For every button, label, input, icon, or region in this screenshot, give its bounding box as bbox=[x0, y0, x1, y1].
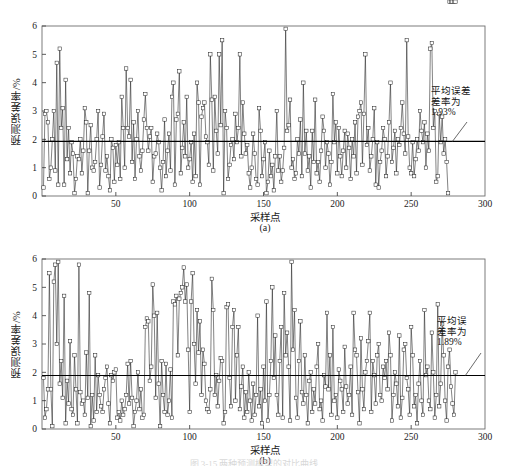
y-axis-label-b: 预测误差率/% bbox=[6, 285, 28, 405]
svg-text:100: 100 bbox=[183, 432, 198, 442]
svg-text:3: 3 bbox=[32, 106, 37, 116]
svg-text:300: 300 bbox=[478, 432, 493, 442]
plot-b-svg: 012345650100150200250300 bbox=[0, 233, 508, 466]
svg-text:50: 50 bbox=[111, 432, 121, 442]
figure-container: 012345650100150200250300 预测误差率/% 采样点 (a)… bbox=[0, 0, 508, 466]
svg-text:0: 0 bbox=[32, 191, 37, 201]
svg-text:200: 200 bbox=[330, 199, 345, 209]
mean-annotation-a-line3: 1.93% bbox=[431, 107, 471, 118]
svg-text:1: 1 bbox=[32, 163, 37, 173]
svg-text:2: 2 bbox=[32, 135, 37, 145]
chart-panel-a: 012345650100150200250300 预测误差率/% 采样点 (a)… bbox=[0, 0, 508, 233]
svg-text:100: 100 bbox=[183, 199, 198, 209]
svg-text:4: 4 bbox=[32, 311, 37, 321]
svg-text:250: 250 bbox=[404, 199, 419, 209]
svg-text:4: 4 bbox=[32, 78, 37, 88]
svg-text:5: 5 bbox=[32, 50, 37, 60]
mean-annotation-b-line2: 差率为 bbox=[437, 327, 467, 338]
svg-text:3: 3 bbox=[32, 339, 37, 349]
svg-text:150: 150 bbox=[256, 199, 271, 209]
mean-annotation-b-line1: 平均误 bbox=[437, 316, 467, 327]
mean-annotation-a-line1: 平均误差 bbox=[431, 86, 471, 97]
chart-panel-b: 012345650100150200250300 预测误差率/% 采样点 (b)… bbox=[0, 233, 508, 466]
svg-text:250: 250 bbox=[404, 432, 419, 442]
svg-text:50: 50 bbox=[111, 199, 121, 209]
mean-annotation-a: 平均误差 差率为 1.93% bbox=[431, 86, 471, 118]
panel-caption-a: (a) bbox=[205, 222, 325, 233]
svg-text:2: 2 bbox=[32, 368, 37, 378]
svg-text:1: 1 bbox=[32, 396, 37, 406]
svg-text:200: 200 bbox=[330, 432, 345, 442]
svg-text:300: 300 bbox=[478, 199, 493, 209]
mean-annotation-b-line3: 1.89% bbox=[437, 337, 467, 348]
mean-annotation-b: 平均误 差率为 1.89% bbox=[437, 316, 467, 348]
mean-annotation-a-line2: 差率为 bbox=[431, 97, 471, 108]
figure-bottom-caption: 图 3-15 两种预测模型的对比曲线 bbox=[0, 457, 508, 466]
svg-text:0: 0 bbox=[32, 424, 37, 434]
svg-text:6: 6 bbox=[32, 254, 37, 264]
svg-text:150: 150 bbox=[256, 432, 271, 442]
y-axis-label-a: 预测误差率/% bbox=[6, 52, 28, 172]
svg-text:5: 5 bbox=[32, 283, 37, 293]
svg-text:6: 6 bbox=[32, 21, 37, 31]
